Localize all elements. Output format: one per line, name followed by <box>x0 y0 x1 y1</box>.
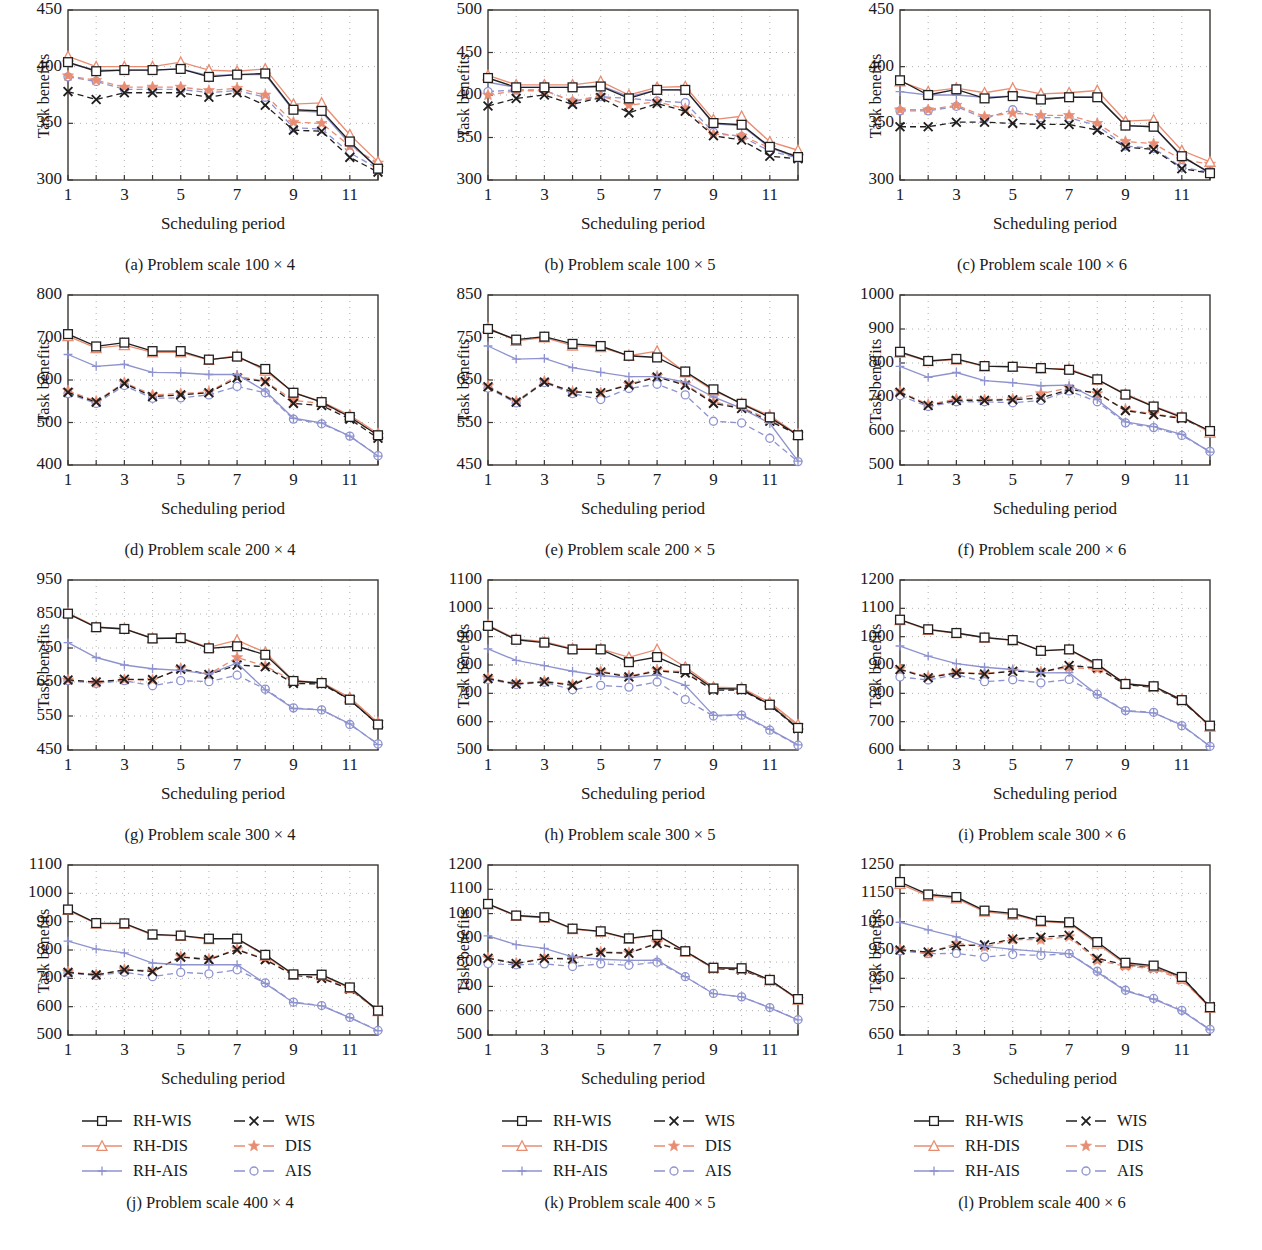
y-tick-label: 600 <box>832 421 894 438</box>
y-tick-label: 300 <box>420 170 482 187</box>
legend-item: RH-WIS <box>500 1113 612 1130</box>
y-tick-label: 450 <box>0 0 62 17</box>
x-tick-label: 11 <box>754 471 786 488</box>
y-tick-label: 800 <box>0 285 62 302</box>
x-tick-label: 7 <box>1053 471 1085 488</box>
figure-grid: 300350400450 1357911 Task benefits Sched… <box>0 0 1262 1250</box>
panel-caption-b: (b) Problem scale 100 × 5 <box>420 255 840 275</box>
y-axis-label: Task benefits <box>455 624 473 709</box>
legend-marker-dis-icon <box>652 1139 696 1153</box>
y-tick-label: 600 <box>832 740 894 757</box>
panel-caption-h: (h) Problem scale 300 × 5 <box>420 825 840 845</box>
x-tick-label: 3 <box>528 471 560 488</box>
legend-item: RH-DIS <box>80 1138 188 1155</box>
panel-caption-k: (k) Problem scale 400 × 5 <box>420 1193 840 1213</box>
x-tick-label: 1 <box>884 756 916 773</box>
panel-caption-a: (a) Problem scale 100 × 4 <box>0 255 420 275</box>
legend-marker-ais-icon <box>1064 1164 1108 1178</box>
x-tick-label: 3 <box>108 471 140 488</box>
y-tick-label: 500 <box>420 0 482 17</box>
x-tick-label: 1 <box>52 471 84 488</box>
y-tick-label: 450 <box>0 740 62 757</box>
legend-item: AIS <box>652 1163 732 1180</box>
legend-marker-rh-wis-icon <box>500 1114 544 1128</box>
legend-label: RH-WIS <box>133 1113 192 1130</box>
legend-marker-wis-icon <box>1064 1114 1108 1128</box>
y-tick-label: 1000 <box>420 598 482 615</box>
legend-marker-wis-icon <box>232 1114 276 1128</box>
y-tick-label: 450 <box>832 0 894 17</box>
plot-area-g: 450550650750850950 1357911 Task benefits <box>0 570 420 770</box>
legend-item: RH-AIS <box>80 1163 188 1180</box>
x-tick-label: 9 <box>1110 471 1142 488</box>
x-tick-label: 7 <box>641 471 673 488</box>
legend-3: RH-WIS RH-DIS RH-AIS WIS DIS AIS <box>912 1113 1212 1193</box>
y-tick-label: 900 <box>832 319 894 336</box>
x-axis-label: Scheduling period <box>454 499 832 519</box>
legend-marker-ais-icon <box>652 1164 696 1178</box>
chart-panel-k: 500600700800900100011001200 1357911 Task… <box>420 855 840 1140</box>
y-tick-label: 500 <box>420 1025 482 1042</box>
y-tick-label: 1000 <box>0 883 62 900</box>
x-tick-label: 3 <box>940 756 972 773</box>
legend-item: RH-WIS <box>912 1113 1024 1130</box>
y-tick-label: 850 <box>0 604 62 621</box>
legend-item: AIS <box>1064 1163 1144 1180</box>
chart-panel-i: 600700800900100011001200 1357911 Task be… <box>832 570 1252 855</box>
x-tick-label: 5 <box>997 471 1029 488</box>
y-tick-label: 500 <box>0 1025 62 1042</box>
y-axis-label: Task benefits <box>867 54 885 139</box>
legend-marker-rh-dis-icon <box>912 1139 956 1153</box>
x-tick-label: 1 <box>472 1041 504 1058</box>
x-tick-label: 9 <box>698 186 730 203</box>
plot-area-c: 300350400450 1357911 Task benefits <box>832 0 1252 200</box>
x-tick-label: 7 <box>1053 1041 1085 1058</box>
y-tick-label: 600 <box>0 997 62 1014</box>
y-axis-label: Task benefits <box>867 909 885 994</box>
x-axis-label: Scheduling period <box>454 214 832 234</box>
legend-marker-rh-wis-icon <box>80 1114 124 1128</box>
legend-item: RH-AIS <box>912 1163 1020 1180</box>
legend-label: DIS <box>1117 1138 1144 1155</box>
panel-caption-i: (i) Problem scale 300 × 6 <box>832 825 1252 845</box>
legend-item: RH-DIS <box>912 1138 1020 1155</box>
x-axis-label: Scheduling period <box>34 499 412 519</box>
legend-label: RH-DIS <box>133 1138 188 1155</box>
legend-label: RH-AIS <box>965 1163 1020 1180</box>
y-axis-label: Task benefits <box>455 54 473 139</box>
x-tick-label: 9 <box>1110 756 1142 773</box>
panel-caption-l: (l) Problem scale 400 × 6 <box>832 1193 1252 1213</box>
x-tick-label: 1 <box>472 186 504 203</box>
y-tick-label: 650 <box>832 1025 894 1042</box>
x-tick-label: 3 <box>940 186 972 203</box>
x-tick-label: 3 <box>108 1041 140 1058</box>
x-tick-label: 5 <box>997 186 1029 203</box>
chart-panel-h: 50060070080090010001100 1357911 Task ben… <box>420 570 840 855</box>
chart-panel-g: 450550650750850950 1357911 Task benefits… <box>0 570 420 855</box>
panel-caption-d: (d) Problem scale 200 × 4 <box>0 540 420 560</box>
x-axis-label: Scheduling period <box>866 1069 1244 1089</box>
x-tick-label: 9 <box>278 1041 310 1058</box>
chart-panel-f: 5006007008009001000 1357911 Task benefit… <box>832 285 1252 570</box>
y-tick-label: 750 <box>832 997 894 1014</box>
y-tick-label: 1150 <box>832 883 894 900</box>
x-tick-label: 5 <box>165 1041 197 1058</box>
y-tick-label: 950 <box>0 570 62 587</box>
chart-panel-a: 300350400450 1357911 Task benefits Sched… <box>0 0 420 285</box>
y-tick-label: 850 <box>420 285 482 302</box>
x-axis-label: Scheduling period <box>866 214 1244 234</box>
x-tick-label: 9 <box>278 186 310 203</box>
legend-marker-rh-ais-icon <box>80 1164 124 1178</box>
x-tick-label: 9 <box>278 471 310 488</box>
x-tick-label: 11 <box>334 756 366 773</box>
x-tick-label: 11 <box>754 1041 786 1058</box>
x-tick-label: 11 <box>334 186 366 203</box>
chart-panel-l: 650750850950105011501250 1357911 Task be… <box>832 855 1252 1140</box>
x-tick-label: 7 <box>221 186 253 203</box>
y-tick-label: 1100 <box>420 570 482 587</box>
x-tick-label: 3 <box>940 471 972 488</box>
y-tick-label: 500 <box>420 740 482 757</box>
x-axis-label: Scheduling period <box>454 784 832 804</box>
legend-marker-ais-icon <box>232 1164 276 1178</box>
x-tick-label: 5 <box>585 1041 617 1058</box>
